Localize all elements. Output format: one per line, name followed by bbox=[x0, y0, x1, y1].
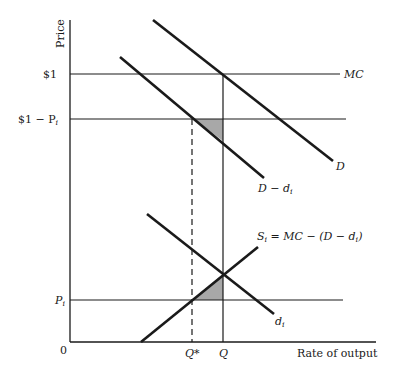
d-curve bbox=[153, 20, 333, 161]
di-label: di bbox=[275, 315, 285, 329]
price-label-one-dollar: $1 bbox=[43, 68, 57, 81]
y-axis-label: Price bbox=[54, 19, 67, 48]
si-curve bbox=[141, 247, 258, 342]
mc-label: MC bbox=[343, 68, 364, 81]
price-label-pi: Pi bbox=[54, 294, 65, 308]
d-minus-di-label: D − di bbox=[257, 182, 293, 196]
q-star-label: Q* bbox=[185, 347, 200, 360]
price-label-one-minus-pi: $1 − Pi bbox=[18, 113, 59, 127]
d-label: D bbox=[335, 160, 345, 173]
q-label: Q bbox=[219, 347, 228, 360]
origin-label: 0 bbox=[60, 344, 67, 357]
economics-diagram: Price $1 $1 − Pi Pi 0 Q* Q Rate of outpu… bbox=[0, 0, 396, 375]
si-label: Si = MC − (D − di) bbox=[257, 230, 362, 244]
x-axis-label: Rate of output bbox=[297, 347, 378, 360]
